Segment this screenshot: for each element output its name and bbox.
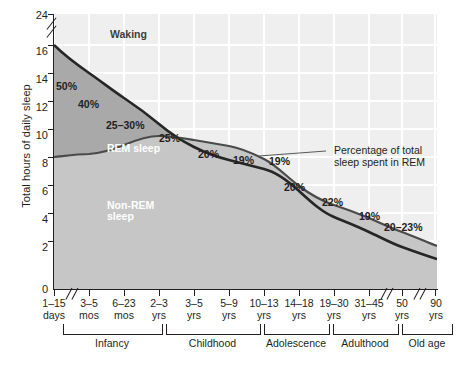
x-label-4-line2: yrs bbox=[174, 310, 214, 322]
y-tick-label-24: 24 bbox=[8, 9, 48, 21]
x-label-4-line1: 3–5 bbox=[174, 298, 214, 310]
x-label-1: 3–5 mos bbox=[69, 298, 109, 321]
x-label-3-line2: yrs bbox=[139, 310, 179, 322]
percent-label-1: 50% bbox=[56, 80, 77, 92]
x-label-0-line1: 1–15 bbox=[34, 298, 74, 310]
x-tick-8 bbox=[334, 290, 335, 296]
percent-label-7: 19% bbox=[269, 155, 290, 167]
y-tick-label-14: 14 bbox=[8, 73, 48, 85]
percent-label-4: 25% bbox=[159, 132, 180, 144]
x-tick-10 bbox=[402, 290, 403, 296]
nonrem-region-label-line2: sleep bbox=[107, 210, 134, 222]
x-label-10-line1: 50 bbox=[383, 298, 421, 310]
x-label-1-line2: mos bbox=[69, 310, 109, 322]
x-label-3: 2–3 yrs bbox=[139, 298, 179, 321]
x-label-11-line2: yrs bbox=[417, 310, 455, 322]
x-label-10-line2: yrs bbox=[383, 310, 421, 322]
x-tick-0 bbox=[54, 290, 55, 296]
y-tick-14 bbox=[48, 73, 54, 74]
y-tick-label-0: 0 bbox=[8, 283, 48, 295]
x-label-3-line1: 2–3 bbox=[139, 298, 179, 310]
y-axis-line bbox=[53, 14, 54, 290]
stage-bracket-adolescence bbox=[264, 324, 330, 335]
y-tick-12 bbox=[48, 101, 54, 102]
y-tick-label-12: 12 bbox=[8, 101, 48, 113]
x-label-0: 1–15 days bbox=[34, 298, 74, 321]
x-label-11-line1: 90 bbox=[417, 298, 455, 310]
callout-line-2: sleep spent in REM bbox=[334, 156, 425, 169]
x-label-1-line1: 3–5 bbox=[69, 298, 109, 310]
percent-label-5: 20% bbox=[198, 148, 219, 160]
x-label-10: 50 yrs bbox=[383, 298, 421, 321]
y-tick-2 bbox=[48, 241, 54, 242]
y-tick-24 bbox=[48, 14, 54, 15]
stage-label-adolescence: Adolescence bbox=[258, 337, 334, 349]
x-label-4: 3–5 yrs bbox=[174, 298, 214, 321]
percent-label-10: 19% bbox=[359, 210, 380, 222]
percent-label-2: 40% bbox=[78, 98, 99, 110]
y-tick-8 bbox=[48, 157, 54, 158]
y-tick-label-8: 8 bbox=[8, 157, 48, 169]
y-tick-label-6: 6 bbox=[8, 185, 48, 197]
y-tick-label-16: 16 bbox=[8, 45, 48, 57]
rem-region-label: REM sleep bbox=[107, 142, 160, 154]
callout-line-1: Percentage of total bbox=[334, 144, 422, 157]
x-label-2: 6–23 mos bbox=[104, 298, 144, 321]
stage-bracket-oldage bbox=[402, 324, 453, 335]
y-tick-4 bbox=[48, 213, 54, 214]
percent-label-3: 25–30% bbox=[106, 119, 145, 131]
percent-label-11: 20–23% bbox=[384, 221, 423, 233]
y-tick-16 bbox=[48, 45, 54, 46]
x-label-0-line2: days bbox=[34, 310, 74, 322]
stage-bracket-infancy bbox=[63, 324, 163, 335]
percent-label-9: 22% bbox=[322, 196, 343, 208]
y-tick-10 bbox=[48, 129, 54, 130]
x-tick-4 bbox=[194, 290, 195, 296]
x-label-2-line1: 6–23 bbox=[104, 298, 144, 310]
stage-bracket-childhood bbox=[166, 324, 261, 335]
y-tick-label-4: 4 bbox=[8, 213, 48, 225]
plot-area: Waking REM sleep Non-REM sleep 50% 40% 2… bbox=[54, 14, 437, 289]
percent-label-8: 20% bbox=[284, 181, 305, 193]
x-tick-7 bbox=[299, 290, 300, 296]
sleep-chart-figure: Total hours of daily sleep 24 16 14 12 1… bbox=[0, 0, 465, 371]
x-label-2-line2: mos bbox=[104, 310, 144, 322]
y-tick-label-2: 2 bbox=[8, 241, 48, 253]
y-tick-6 bbox=[48, 185, 54, 186]
stage-label-oldage: Old age bbox=[400, 337, 454, 349]
x-tick-11 bbox=[435, 290, 436, 296]
waking-region-label: Waking bbox=[110, 28, 147, 40]
x-tick-5 bbox=[229, 290, 230, 296]
percent-label-6: 19% bbox=[233, 154, 254, 166]
y-tick-label-10: 10 bbox=[8, 129, 48, 141]
stage-bracket-adulthood bbox=[333, 324, 399, 335]
y-axis-break-marks bbox=[47, 22, 63, 42]
x-tick-6 bbox=[264, 290, 265, 296]
stage-label-infancy: Infancy bbox=[63, 337, 161, 349]
x-tick-9 bbox=[369, 290, 370, 296]
x-tick-1 bbox=[89, 290, 90, 296]
x-label-11: 90 yrs bbox=[417, 298, 455, 321]
x-tick-2 bbox=[124, 290, 125, 296]
x-tick-3 bbox=[159, 290, 160, 296]
stage-label-childhood: Childhood bbox=[166, 337, 259, 349]
stage-label-adulthood: Adulthood bbox=[330, 337, 400, 349]
